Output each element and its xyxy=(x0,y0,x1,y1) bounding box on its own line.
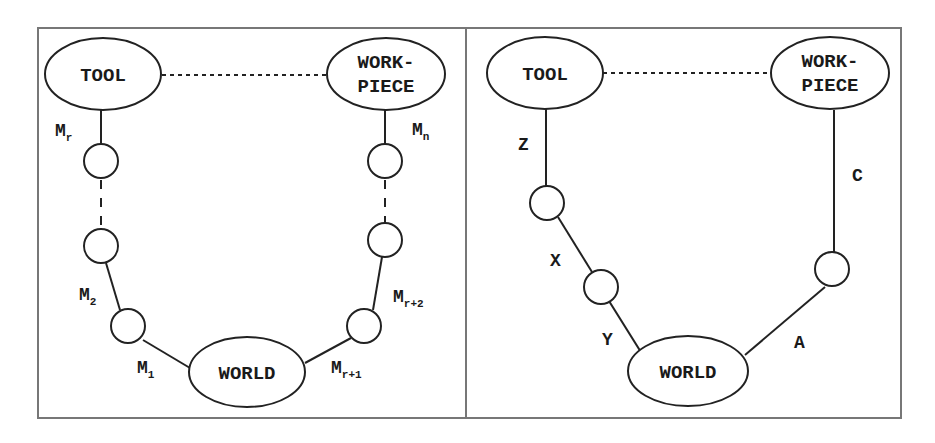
label-m1: M1 xyxy=(137,358,155,381)
label-c: C xyxy=(852,166,863,186)
node-tool-label: TOOL xyxy=(80,65,126,87)
outer-frame xyxy=(38,28,901,418)
link-a xyxy=(745,287,825,355)
left-panel: TOOL WORK- PIECE WORLD Mr M2 M1 Mn Mr+2 … xyxy=(45,38,445,407)
joint-circle xyxy=(584,270,618,304)
node-tool-label: TOOL xyxy=(522,64,568,86)
joint-circle xyxy=(84,144,118,178)
label-z: Z xyxy=(518,135,529,155)
node-world: WORLD xyxy=(628,336,748,406)
node-workpiece-label-1: WORK- xyxy=(801,51,858,73)
joint-circle xyxy=(368,144,402,178)
link-mr2 xyxy=(373,257,382,310)
joint-circle xyxy=(111,309,145,343)
label-y: Y xyxy=(602,330,613,350)
node-world-label: WORLD xyxy=(218,363,275,385)
node-workpiece: WORK- PIECE xyxy=(771,37,889,109)
node-workpiece-label-2: PIECE xyxy=(801,75,858,97)
link-y xyxy=(609,301,644,357)
label-mr: Mr xyxy=(55,121,72,144)
joint-circle xyxy=(84,229,118,263)
label-a: A xyxy=(794,333,805,353)
label-x: X xyxy=(550,251,561,271)
joint-circle xyxy=(368,223,402,257)
joint-circle xyxy=(815,252,849,286)
label-m2: M2 xyxy=(79,285,96,308)
kinematic-chain-diagram: TOOL WORK- PIECE WORLD Mr M2 M1 Mn Mr+2 … xyxy=(0,0,935,443)
joint-circle xyxy=(347,309,381,343)
link-m2 xyxy=(106,263,120,310)
node-workpiece: WORK- PIECE xyxy=(327,38,445,110)
link-m1 xyxy=(143,340,190,368)
label-mr1: Mr+1 xyxy=(331,358,362,381)
link-x xyxy=(558,217,592,272)
node-world: WORLD xyxy=(189,337,305,407)
node-tool: TOOL xyxy=(45,38,161,110)
label-mr2: Mr+2 xyxy=(393,287,424,310)
node-workpiece-label-1: WORK- xyxy=(357,52,414,74)
right-panel: TOOL WORK- PIECE WORLD Z X Y C A xyxy=(487,37,889,406)
joint-circle xyxy=(530,186,564,220)
node-workpiece-label-2: PIECE xyxy=(357,76,414,98)
label-mn: Mn xyxy=(412,120,429,143)
link-mr1 xyxy=(305,338,351,363)
node-world-label: WORLD xyxy=(659,362,716,384)
node-tool: TOOL xyxy=(487,37,603,109)
